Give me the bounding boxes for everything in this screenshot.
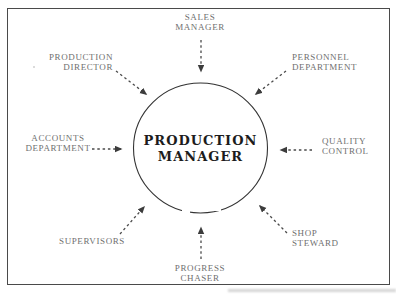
scan-shadow-artifact (228, 289, 396, 292)
node-label-line: ACCOUNTS (18, 133, 98, 143)
node-label-line: MANAGER (160, 22, 240, 32)
node-label-line: PROGRESS (160, 263, 240, 273)
node-label-line: STEWARD (292, 238, 352, 248)
node-production-manager-center: PRODUCTION MANAGER (133, 133, 268, 165)
circle-scan-gap (182, 208, 190, 213)
node-production-director: PRODUCTION DIRECTOR (33, 52, 113, 72)
node-accounts-department: ACCOUNTS DEPARTMENT (18, 133, 98, 153)
diagram-page: SALES MANAGER PRODUCTION DIRECTOR PERSON… (0, 0, 396, 294)
node-sales-manager: SALES MANAGER (160, 12, 240, 32)
node-quality-control: QUALITY CONTROL (322, 136, 382, 156)
node-label-line: PERSONNEL (292, 52, 372, 62)
node-supervisors: SUPERVISORS (52, 236, 132, 246)
scan-speck-artifact (33, 66, 35, 68)
arrow-shop-steward-to-center (260, 206, 287, 233)
node-label-line: CHASER (160, 273, 240, 283)
node-label-line: PRODUCTION (33, 52, 113, 62)
center-label-line: PRODUCTION (133, 133, 268, 149)
node-label-line: SUPERVISORS (52, 236, 132, 246)
circle-scan-gap (213, 206, 221, 211)
arrow-personnel-department-to-center (256, 71, 286, 94)
arrow-supervisors-to-center (120, 207, 144, 234)
node-label-line: DEPARTMENT (292, 62, 372, 72)
node-label-line: SALES (160, 12, 240, 22)
node-personnel-department: PERSONNEL DEPARTMENT (292, 52, 372, 72)
node-label-line: SHOP (292, 228, 352, 238)
node-label-line: DIRECTOR (33, 62, 113, 72)
center-label-line: MANAGER (133, 149, 268, 165)
node-label-line: QUALITY (322, 136, 382, 146)
node-shop-steward: SHOP STEWARD (292, 228, 352, 248)
node-label-line: CONTROL (322, 146, 382, 156)
node-label-line: DEPARTMENT (18, 143, 98, 153)
arrow-production-director-to-center (116, 71, 146, 94)
node-progress-chaser: PROGRESS CHASER (160, 263, 240, 283)
